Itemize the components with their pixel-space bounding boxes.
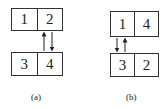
arrows-layer bbox=[0, 0, 163, 109]
